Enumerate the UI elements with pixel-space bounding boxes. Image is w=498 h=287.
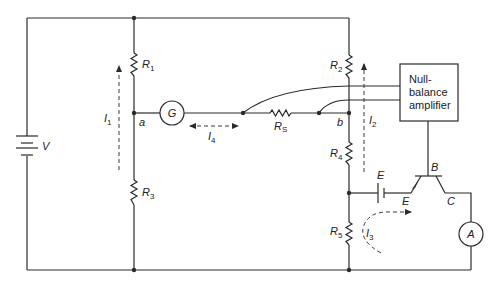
svg-text:R1: R1 (142, 58, 155, 73)
circuit-diagram: V R1 R3 R2 R4 R5 RS G a b I1 I4 (0, 0, 498, 287)
svg-text:G: G (168, 107, 177, 119)
svg-text:I1: I1 (104, 112, 112, 127)
node-b-label: b (337, 116, 343, 128)
svg-text:C: C (447, 195, 455, 207)
svg-text:I3: I3 (366, 227, 374, 242)
ammeter-icon: A (459, 222, 483, 246)
battery-icon: V (16, 136, 51, 155)
junction-dots (132, 16, 351, 272)
svg-text:Null-: Null- (409, 73, 432, 85)
svg-text:I4: I4 (208, 130, 216, 145)
svg-text:E: E (402, 195, 410, 207)
svg-text:A: A (466, 228, 474, 240)
svg-text:R4: R4 (330, 147, 343, 162)
null-balance-amplifier: Null- balance amplifier (400, 64, 458, 121)
current-i3: I3 (363, 212, 411, 253)
current-i1: I1 (104, 66, 119, 170)
svg-text:E: E (377, 169, 385, 181)
resistor-r5-icon: R5 (330, 222, 352, 245)
svg-text:B: B (431, 161, 438, 173)
current-i2: I2 (364, 64, 377, 172)
svg-text:I2: I2 (369, 114, 377, 129)
wiring (27, 18, 471, 270)
cell-e-icon: E (377, 169, 385, 203)
emitter-arrow-icon (412, 181, 418, 189)
svg-text:R5: R5 (330, 225, 343, 240)
node-a-label: a (139, 116, 145, 128)
svg-text:balance: balance (409, 86, 448, 98)
resistor-rs-icon: RS (270, 110, 291, 134)
svg-text:R3: R3 (142, 186, 155, 201)
current-i4: I4 (190, 126, 238, 145)
resistor-r2-icon: R2 (330, 55, 352, 78)
resistor-r1-icon: R1 (131, 53, 155, 76)
galvanometer-icon: G (160, 101, 184, 125)
resistor-r3-icon: R3 (131, 180, 155, 205)
svg-text:amplifier: amplifier (409, 99, 451, 111)
svg-text:RS: RS (274, 120, 287, 134)
battery-label: V (42, 140, 51, 152)
svg-text:R2: R2 (330, 59, 343, 74)
resistor-r4-icon: R4 (330, 142, 352, 165)
